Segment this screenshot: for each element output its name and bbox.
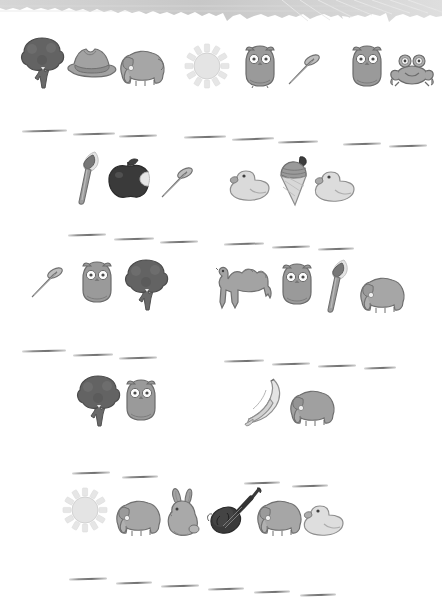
- answer-blank[interactable]: [73, 132, 115, 135]
- tree-icon: [74, 374, 124, 426]
- answer-blank[interactable]: [292, 484, 328, 487]
- answer-blank[interactable]: [69, 577, 107, 580]
- apple-icon: [106, 158, 152, 200]
- elephant-icon: [288, 385, 338, 427]
- paintbrush-icon: [322, 258, 354, 314]
- answer-blank[interactable]: [184, 135, 226, 138]
- owl-icon: [350, 44, 384, 88]
- duck-icon: [302, 500, 346, 538]
- answer-blank[interactable]: [119, 135, 157, 138]
- answer-blank[interactable]: [73, 353, 113, 356]
- tree-icon: [18, 36, 68, 88]
- nail-icon: [158, 165, 194, 201]
- answer-blank[interactable]: [122, 475, 158, 478]
- duck-icon: [313, 166, 357, 204]
- torn-paper-header: [0, 0, 442, 28]
- answer-blank[interactable]: [22, 349, 66, 352]
- answer-blank[interactable]: [300, 593, 336, 596]
- owl-icon: [80, 260, 114, 304]
- answer-blank[interactable]: [272, 245, 310, 248]
- answer-blank[interactable]: [318, 364, 356, 367]
- frog-icon: [389, 52, 435, 88]
- answer-blank[interactable]: [22, 130, 67, 133]
- owl-icon: [280, 262, 314, 306]
- owl-icon: [124, 378, 158, 422]
- answer-blank[interactable]: [160, 240, 198, 243]
- answer-blank[interactable]: [224, 242, 264, 245]
- answer-blank[interactable]: [272, 362, 310, 365]
- paintbrush-icon: [73, 150, 105, 206]
- elephant-icon: [118, 45, 168, 87]
- answer-blank[interactable]: [318, 247, 354, 250]
- answer-blank[interactable]: [232, 137, 274, 140]
- sun-icon: [184, 43, 230, 89]
- answer-blank[interactable]: [116, 581, 152, 584]
- nail-icon: [285, 52, 321, 88]
- rabbit-icon: [164, 487, 204, 539]
- answer-blank[interactable]: [161, 584, 199, 587]
- answer-blank[interactable]: [224, 359, 264, 362]
- answer-blank[interactable]: [119, 356, 157, 359]
- answer-blank[interactable]: [278, 140, 318, 143]
- answer-blank[interactable]: [208, 587, 244, 590]
- elephant-icon: [358, 272, 408, 314]
- nail-icon: [28, 265, 64, 301]
- owl-icon: [243, 44, 277, 88]
- elephant-icon: [255, 495, 305, 537]
- worksheet-page: [0, 0, 442, 606]
- camel-icon: [216, 262, 274, 310]
- answer-blank[interactable]: [72, 471, 110, 474]
- ice-cream-icon: [276, 155, 314, 207]
- answer-blank[interactable]: [114, 237, 154, 240]
- answer-blank[interactable]: [254, 590, 290, 593]
- banana-icon: [244, 378, 286, 430]
- elephant-icon: [114, 495, 164, 537]
- answer-blank[interactable]: [389, 145, 427, 148]
- tree-icon: [122, 258, 172, 310]
- sun-icon: [62, 487, 108, 533]
- hat-icon: [66, 47, 118, 83]
- answer-blank[interactable]: [364, 367, 396, 370]
- answer-blank[interactable]: [68, 233, 106, 236]
- duck-icon: [228, 165, 272, 203]
- answer-blank[interactable]: [244, 481, 280, 484]
- answer-blank[interactable]: [343, 143, 381, 146]
